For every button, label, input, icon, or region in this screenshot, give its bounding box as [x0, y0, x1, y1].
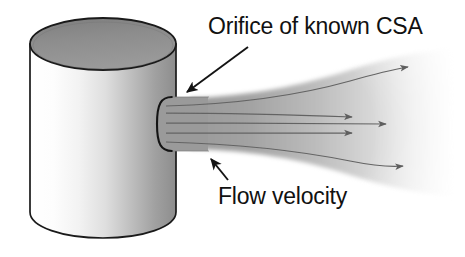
cylinder-body — [30, 44, 176, 238]
diagram-canvas: Orifice of known CSA Flow velocity — [0, 0, 465, 257]
cylinder — [30, 18, 176, 238]
flow-velocity-label: Flow velocity — [218, 183, 348, 209]
orifice-leader-arrow — [187, 47, 248, 92]
flow-velocity-leader-arrow — [211, 159, 228, 180]
orifice-flow-figure: Orifice of known CSA Flow velocity — [0, 0, 465, 257]
cylinder-top-disc — [30, 18, 176, 70]
jet-plume-shape — [190, 49, 452, 196]
orifice-label: Orifice of known CSA — [208, 13, 423, 39]
expanding-jet — [190, 49, 452, 196]
